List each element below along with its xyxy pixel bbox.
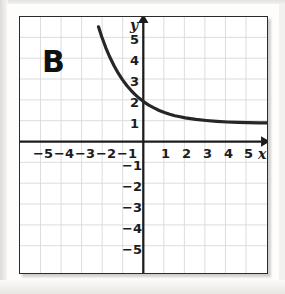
paper-edge-bottom — [0, 280, 285, 294]
x-tick-label-5: 5 — [244, 147, 253, 160]
y-tick-label-2: 2 — [130, 96, 139, 109]
x-tick-label-4: 4 — [224, 147, 233, 160]
x-tick-label-2: 2 — [182, 147, 191, 160]
x-tick-label--4: −4 — [54, 147, 74, 160]
y-tick-label--4: −4 — [122, 222, 142, 235]
y-axis-label: y — [130, 18, 138, 32]
panel-label: B — [42, 47, 65, 77]
y-tick-label--1: −1 — [122, 159, 142, 172]
x-tick-label--3: −3 — [75, 147, 95, 160]
x-tick-label--2: −2 — [96, 147, 116, 160]
x-tick-label-1: 1 — [161, 147, 170, 160]
x-tick-label--5: −5 — [33, 147, 53, 160]
y-tick-label-1: 1 — [130, 117, 139, 130]
x-tick-label-3: 3 — [203, 147, 212, 160]
coordinate-plane: B −5 −4 −3 −2 −1 1 2 3 4 5 5 4 3 2 1 −1 … — [19, 16, 268, 274]
figure-page: B −5 −4 −3 −2 −1 1 2 3 4 5 5 4 3 2 1 −1 … — [0, 0, 285, 294]
y-tick-label-4: 4 — [130, 54, 139, 67]
y-tick-label-5: 5 — [130, 33, 139, 46]
x-axis-label: x — [258, 147, 266, 161]
y-tick-label--3: −3 — [122, 201, 142, 214]
y-tick-label--5: −5 — [122, 243, 142, 256]
y-tick-label--2: −2 — [122, 180, 142, 193]
y-tick-label-3: 3 — [130, 75, 139, 88]
